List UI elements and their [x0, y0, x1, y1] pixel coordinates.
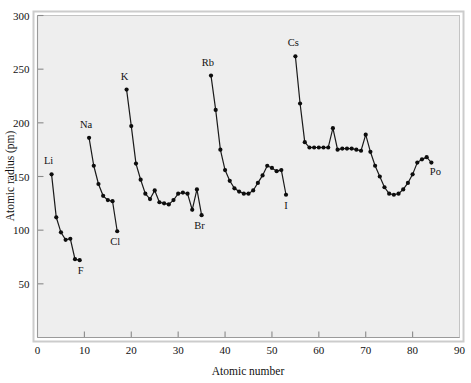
point-label-po: Po [430, 166, 441, 177]
data-point [115, 229, 119, 233]
point-label-f: F [78, 265, 84, 276]
data-point [298, 101, 302, 105]
data-point [246, 192, 250, 196]
data-point [303, 140, 307, 144]
x-axis-label: Atomic number [212, 365, 285, 377]
y-tick-label: 50 [19, 278, 31, 290]
data-point [59, 230, 63, 234]
x-tick-label: 10 [79, 344, 91, 356]
data-point [359, 149, 363, 153]
data-point [223, 168, 227, 172]
data-point [251, 188, 255, 192]
data-point [270, 166, 274, 170]
y-tick-label: 100 [13, 224, 30, 236]
data-point [171, 198, 175, 202]
data-point [335, 148, 339, 152]
y-tick-label: 250 [13, 63, 30, 75]
data-point [106, 198, 110, 202]
point-label-cs: Cs [288, 37, 299, 48]
data-point [167, 202, 171, 206]
data-point [340, 146, 344, 150]
data-point [284, 193, 288, 197]
data-point [64, 238, 68, 242]
x-tick-label: 40 [220, 344, 232, 356]
data-point [396, 192, 400, 196]
data-point [209, 74, 213, 78]
data-point [411, 172, 415, 176]
data-point [275, 169, 279, 173]
data-point [153, 188, 157, 192]
data-point [49, 172, 53, 176]
point-label-k: K [121, 71, 129, 82]
data-point [228, 179, 232, 183]
point-label-cl: Cl [110, 236, 120, 247]
data-point [237, 189, 241, 193]
x-tick-label: 30 [173, 344, 185, 356]
x-tick-label: 20 [126, 344, 138, 356]
data-point [415, 160, 419, 164]
x-tick-label: 0 [35, 344, 41, 356]
data-point [317, 145, 321, 149]
data-point [392, 193, 396, 197]
data-point [157, 200, 161, 204]
y-tick-label: 300 [13, 10, 30, 22]
data-point [200, 213, 204, 217]
x-tick-label: 70 [360, 344, 372, 356]
data-point [214, 108, 218, 112]
point-label-li: Li [44, 155, 53, 166]
data-point [101, 194, 105, 198]
point-label-na: Na [80, 119, 93, 130]
data-point [378, 174, 382, 178]
data-point [195, 187, 199, 191]
data-point [326, 145, 330, 149]
data-point [265, 164, 269, 168]
y-tick-label: 200 [13, 117, 30, 129]
data-point [373, 164, 377, 168]
data-point [143, 192, 147, 196]
data-point [401, 187, 405, 191]
data-point [96, 182, 100, 186]
x-tick-label: 90 [454, 344, 466, 356]
data-point [232, 186, 236, 190]
data-point [350, 146, 354, 150]
data-point [139, 178, 143, 182]
data-point [73, 257, 77, 261]
x-tick-label: 60 [313, 344, 325, 356]
data-point [110, 199, 114, 203]
point-label-br: Br [194, 220, 205, 231]
data-point [148, 197, 152, 201]
x-tick-label: 80 [407, 344, 419, 356]
data-point [420, 157, 424, 161]
point-label-i: I [284, 200, 288, 211]
data-point [242, 192, 246, 196]
y-axis-label: Atomic radius (pm) [4, 130, 17, 221]
data-point [293, 54, 297, 58]
data-point [354, 148, 358, 152]
data-point [307, 145, 311, 149]
x-tick-label: 50 [266, 344, 278, 356]
data-point [382, 185, 386, 189]
data-point [54, 215, 58, 219]
data-point [256, 181, 260, 185]
data-point [406, 181, 410, 185]
data-point [331, 126, 335, 130]
data-point [387, 192, 391, 196]
data-point [78, 258, 82, 262]
point-label-rb: Rb [202, 57, 214, 68]
data-point [181, 191, 185, 195]
data-point [425, 155, 429, 159]
data-point [321, 145, 325, 149]
data-point [68, 237, 72, 241]
data-point [279, 168, 283, 172]
data-point [176, 192, 180, 196]
data-point [364, 133, 368, 137]
data-point [345, 146, 349, 150]
data-point [312, 145, 316, 149]
data-point [218, 148, 222, 152]
data-point [87, 136, 91, 140]
data-point [368, 150, 372, 154]
data-point [129, 124, 133, 128]
data-point [134, 162, 138, 166]
data-point [190, 208, 194, 212]
plot-background [37, 15, 460, 338]
